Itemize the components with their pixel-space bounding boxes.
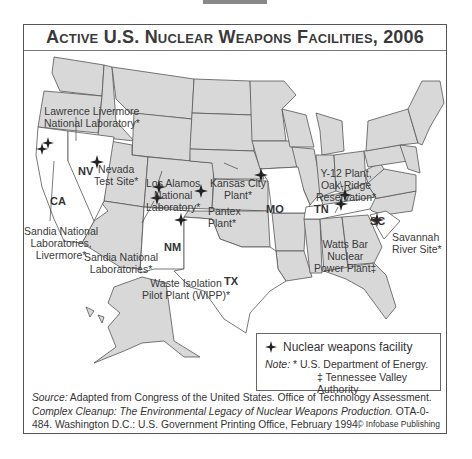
state-wy <box>132 113 192 161</box>
state-label-nv: NV <box>78 165 93 177</box>
state-label-tn: TN <box>314 203 329 215</box>
state-mi <box>316 113 344 155</box>
state-nd <box>192 79 252 115</box>
star-marker-icon <box>265 341 277 353</box>
state-label-nm: NM <box>164 241 181 253</box>
map-figure: Active U.S. Nuclear Weapons Facilities, … <box>23 24 447 434</box>
state-ar <box>272 213 306 251</box>
legend-marker-row: Nuclear weapons facility <box>265 340 412 354</box>
state-label-mo: MO <box>266 203 284 215</box>
top-tab-decoration <box>203 0 267 4</box>
state-sd <box>190 113 254 151</box>
state-label-ca: CA <box>50 195 66 207</box>
label-kansas-city: Kansas City Plant* <box>210 177 266 201</box>
label-watts-bar: Watts Bar Nuclear Power Plant‡ <box>314 238 376 274</box>
state-wa <box>52 57 104 96</box>
label-sandia-albuquerque: Sandia National Laboratories* <box>84 251 158 275</box>
label-pantex: Pantex Plant* <box>208 205 241 229</box>
label-savannah-river: Savannah River Site* <box>392 231 442 255</box>
state-label-sc: SC <box>370 215 385 227</box>
label-y12-oak-ridge: Y-12 Plant, Oak-Ridge Reservation* <box>316 167 376 203</box>
legend-marker-label: Nuclear weapons facility <box>283 340 412 354</box>
legend-box: Nuclear weapons facility Note: * U.S. De… <box>256 333 441 391</box>
label-lawrence-livermore: Lawrence Livermore National Laboratory* <box>44 105 140 129</box>
label-wipp: Waste Isolation Pilot Plant (WIPP)* <box>142 277 230 301</box>
label-nevada-test-site: Nevada Test Site* <box>94 163 138 187</box>
legend-note-doe: Note: * U.S. Department of Energy. <box>265 358 428 370</box>
map-title: Active U.S. Nuclear Weapons Facilities, … <box>24 25 446 51</box>
label-los-alamos: Los Alamos National Laboratory* <box>146 177 200 213</box>
state-hi <box>86 307 104 323</box>
copyright-notice: © Infobase Publishing <box>357 419 440 429</box>
